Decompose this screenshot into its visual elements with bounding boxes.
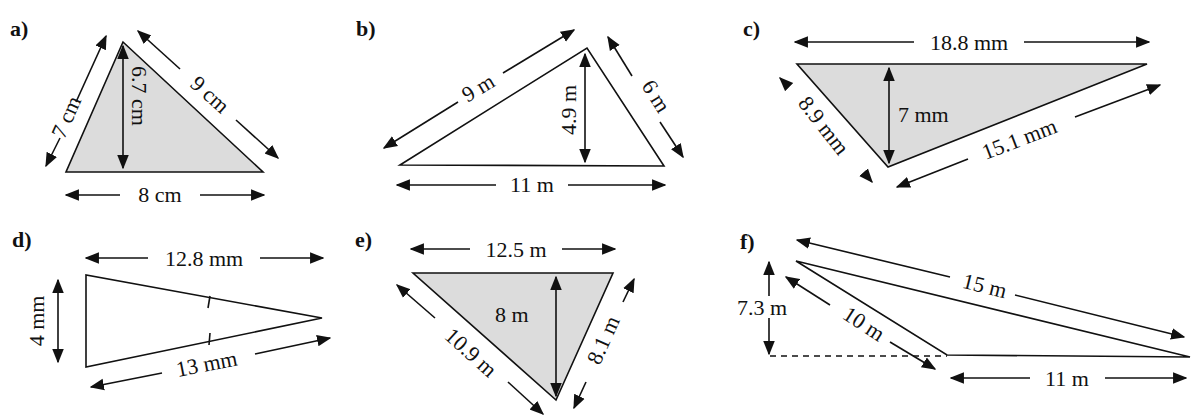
problem-e: e) 8 m 12.5 m 10.9 m 8.1 m [355, 227, 634, 414]
base-label: 11 m [510, 172, 554, 197]
left-side-label: 9 m [457, 68, 499, 107]
triangle-c [797, 64, 1147, 167]
problem-label: c) [743, 16, 760, 41]
left-side-arrow [397, 285, 435, 318]
triangle-b [400, 48, 664, 166]
left-side-label: 7 cm [46, 92, 86, 142]
problem-d: d) 4 mm 12.8 mm 13 mm [12, 227, 330, 387]
right-side-arrow [897, 159, 968, 187]
left-side-arrow-tail [46, 138, 60, 166]
bottom-arrow-tail [255, 338, 330, 354]
problem-f: f) 7.3 m 15 m 10 m 11 m [737, 229, 1190, 391]
top-label: 12.5 m [485, 237, 546, 262]
height-label: 7.3 m [737, 295, 787, 320]
height-label: 6.7 cm [127, 66, 152, 126]
tick-mark [209, 333, 210, 345]
right-side-arrow-tail [660, 122, 683, 157]
bottom-arrow [91, 373, 162, 387]
problem-label: d) [12, 227, 32, 252]
problem-label: f) [740, 229, 755, 254]
right-side-arrow-tail [1075, 85, 1160, 117]
problem-c: c) 7 mm 18.8 mm 8.9 mm 15.1 mm [743, 16, 1160, 187]
bottom-label: 13 mm [174, 345, 239, 381]
short-side-arrow [786, 277, 830, 305]
height-label: 8 m [495, 302, 529, 327]
left-side-arrow [780, 78, 786, 84]
top-label: 18.8 mm [930, 30, 1008, 55]
long-side-label: 15 m [960, 268, 1009, 303]
right-side-arrow [574, 382, 586, 408]
top-label: 12.8 mm [165, 246, 243, 271]
right-side-arrow-tail [623, 279, 634, 302]
problem-label: b) [356, 16, 376, 41]
left-side-arrow-tail [508, 382, 543, 414]
triangles-figure: a) 6.7 cm 7 cm 9 cm 8 cm b) 4.9 m 9 m 6 … [0, 0, 1196, 419]
problem-a: a) 6.7 cm 7 cm 9 cm 8 cm [10, 16, 278, 207]
problem-label: e) [355, 227, 372, 252]
right-side-label: 6 m [637, 75, 676, 117]
problem-label: a) [10, 16, 28, 41]
triangle-a [66, 42, 263, 172]
left-side-arrow-tail [866, 175, 872, 182]
height-label: 7 mm [898, 102, 949, 127]
right-side-arrow [608, 37, 632, 76]
base-label: 11 m [1045, 366, 1089, 391]
height-label: 4.9 m [556, 85, 581, 135]
problem-b: b) 4.9 m 9 m 6 m 11 m [356, 16, 683, 197]
base-label: 8 cm [138, 182, 181, 207]
height-label: 4 mm [24, 296, 49, 347]
